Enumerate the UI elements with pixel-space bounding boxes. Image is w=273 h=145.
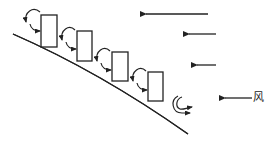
eddy-arrow-2: [62, 28, 76, 49]
building-1: [41, 15, 57, 47]
wind-slope-diagram: [0, 0, 273, 145]
eddy-arrow-5: [173, 96, 192, 113]
eddy-arrow-3: [97, 49, 111, 70]
eddy-arrow-1: [26, 10, 40, 31]
building-2: [77, 31, 92, 61]
building-3: [112, 52, 128, 81]
wind-label: 风: [253, 92, 264, 103]
eddy-arrow-4: [133, 69, 147, 90]
building-4: [148, 72, 163, 101]
